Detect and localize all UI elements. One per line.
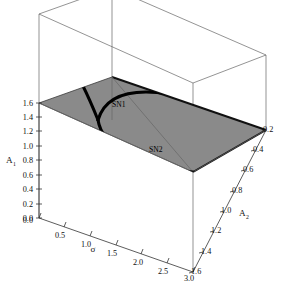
x-tick-label: 2.5 <box>158 267 168 276</box>
box-top-back-left-edge <box>39 0 112 14</box>
annotation-sn2: SN2 <box>149 145 163 154</box>
axis-sigma: 0.0 0.5 1.0 1.5 2.0 2.5 3.0 σ <box>23 213 195 283</box>
annotation-sn1: SN1 <box>112 100 126 109</box>
figure-3d-bifurcation-plot: 1.6 1.4 1.2 1.0 0.8 0.6 0.4 0.2 0.0 A 1 … <box>0 0 281 283</box>
z-tick-label: 0.8 <box>23 156 33 165</box>
z-tick-label: 1.2 <box>23 127 33 136</box>
axis-title-a2: A 2 <box>239 208 249 220</box>
z-tick-label: 0.6 <box>23 171 33 180</box>
y-tick-label: 0.6 <box>243 165 253 174</box>
axis-title-a1: A 1 <box>6 155 16 167</box>
y-tick-label: 1.2 <box>211 226 221 235</box>
y-tick-label: 0.8 <box>232 186 242 195</box>
x-tick-label: 0.5 <box>55 231 65 240</box>
box-top-back-right-edge <box>112 0 266 55</box>
axis-title-a2-subscript: 2 <box>246 214 249 220</box>
z-tick-label: 1.0 <box>23 142 33 151</box>
axis-title-a1-letter: A <box>6 155 13 165</box>
y-tick-label: 1.6 <box>191 267 201 276</box>
x-tick-label: 2.0 <box>133 258 143 267</box>
y-tick-label: 0.2 <box>263 125 273 134</box>
box-top-front-left-edge <box>39 14 193 83</box>
y-tick-label: 0.4 <box>253 145 263 154</box>
z-tick-label: 0.4 <box>23 185 33 194</box>
y-tick-label: 1.0 <box>221 206 231 215</box>
axis-title-a2-letter: A <box>239 208 246 218</box>
y-tick-label: 1.4 <box>201 247 211 256</box>
x-tick-label: 1.5 <box>107 249 117 258</box>
x-tick-label: 0.0 <box>23 216 33 225</box>
box-top-front-right-edge <box>193 55 266 83</box>
z-tick-label: 1.4 <box>23 113 33 122</box>
axis-title-a1-subscript: 1 <box>13 161 16 167</box>
axis-a1-vertical: 1.6 1.4 1.2 1.0 0.8 0.6 0.4 0.2 0.0 <box>23 99 42 223</box>
z-tick-label: 1.6 <box>23 99 33 108</box>
plot-canvas: 1.6 1.4 1.2 1.0 0.8 0.6 0.4 0.2 0.0 A 1 … <box>0 0 281 283</box>
axis-title-sigma: σ <box>91 244 96 254</box>
z-tick-label: 0.2 <box>23 200 33 209</box>
